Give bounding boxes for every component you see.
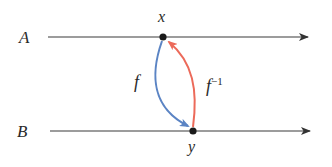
line-b-label: B xyxy=(17,122,28,141)
point-y-label: y xyxy=(186,138,196,156)
point-y-dot-icon xyxy=(189,127,196,134)
function-inverse-diagram: A B f f−1 x y xyxy=(0,0,332,167)
line-a-label: A xyxy=(18,28,30,47)
f-label: f xyxy=(134,72,142,92)
line-b: B xyxy=(17,122,310,141)
f-inverse-arrow-icon xyxy=(169,42,195,127)
f-inverse-label: f−1 xyxy=(206,75,223,96)
point-x-label: x xyxy=(157,8,165,25)
f-arrow-icon xyxy=(155,41,188,126)
diagram-svg: A B f f−1 x y xyxy=(0,0,332,167)
point-x-dot-icon xyxy=(159,33,166,40)
